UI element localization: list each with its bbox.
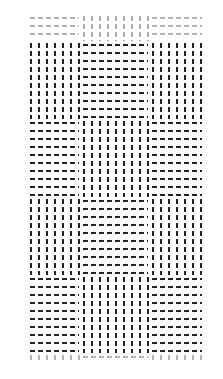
dash-column [83, 16, 85, 41]
dash-row [152, 310, 202, 312]
dash-column [139, 16, 141, 41]
dash-row [152, 25, 202, 27]
dash-row [30, 318, 79, 320]
dash-column [160, 43, 162, 119]
dash-column [160, 199, 162, 275]
dash-row [30, 294, 79, 296]
texture-stimulus [0, 0, 223, 379]
dash-column [99, 121, 101, 197]
dash-row [83, 84, 148, 86]
dash-row [30, 146, 79, 148]
dash-column [54, 199, 56, 275]
dash-column [83, 121, 85, 197]
dash-row [83, 68, 148, 70]
dash-row [152, 302, 202, 304]
dash-row [30, 154, 79, 156]
dash-row [83, 60, 148, 62]
dash-column [30, 43, 32, 119]
dash-row [152, 294, 202, 296]
dash-row [83, 256, 148, 258]
dash-column [54, 43, 56, 119]
dash-row [152, 186, 202, 188]
dash-row [30, 162, 79, 164]
dash-column [99, 277, 101, 353]
dash-column [123, 121, 125, 197]
dash-row [83, 200, 148, 202]
dash-row [152, 162, 202, 164]
dash-row [152, 154, 202, 156]
dash-row [30, 326, 79, 328]
dash-column [54, 355, 56, 362]
dash-column [200, 199, 202, 275]
dash-row [30, 194, 79, 196]
horizontal-texture-block [80, 197, 149, 275]
dash-column [115, 121, 117, 197]
dash-column [91, 16, 93, 41]
dash-column [184, 199, 186, 275]
dash-column [131, 277, 133, 353]
dash-row [152, 178, 202, 180]
dash-row [152, 318, 202, 320]
dash-column [70, 43, 72, 119]
dash-row [83, 272, 148, 274]
dash-row [152, 138, 202, 140]
dash-row [83, 108, 148, 110]
vertical-texture-block [27, 353, 80, 362]
dash-row [30, 302, 79, 304]
dash-row [83, 232, 148, 234]
dash-column [38, 43, 40, 119]
dash-column [83, 277, 85, 353]
dash-column [91, 277, 93, 353]
dash-row [83, 44, 148, 46]
dash-row [83, 76, 148, 78]
dash-column [38, 355, 40, 362]
horizontal-texture-block [149, 14, 203, 41]
dash-column [200, 43, 202, 119]
horizontal-texture-block [80, 41, 149, 119]
dash-column [46, 43, 48, 119]
dash-row [152, 122, 202, 124]
dash-row [83, 216, 148, 218]
dash-row [30, 342, 79, 344]
dash-row [83, 240, 148, 242]
dash-row [83, 224, 148, 226]
dash-column [184, 43, 186, 119]
dash-column [176, 199, 178, 275]
dash-column [176, 355, 178, 362]
dash-row [152, 326, 202, 328]
horizontal-texture-block [27, 14, 80, 41]
dash-column [139, 277, 141, 353]
dash-column [30, 199, 32, 275]
vertical-texture-block [80, 275, 149, 353]
dash-row [30, 286, 79, 288]
dash-column [152, 355, 154, 362]
dash-column [192, 43, 194, 119]
dash-column [168, 355, 170, 362]
dash-column [62, 355, 64, 362]
dash-row [152, 350, 202, 352]
dash-row [30, 130, 79, 132]
dash-column [184, 355, 186, 362]
dash-row [30, 170, 79, 172]
dash-row [152, 342, 202, 344]
dash-row [83, 356, 148, 358]
dash-column [107, 277, 109, 353]
dash-row [152, 286, 202, 288]
dash-column [131, 16, 133, 41]
dash-column [123, 277, 125, 353]
dash-row [30, 334, 79, 336]
dash-column [192, 355, 194, 362]
horizontal-texture-block [149, 275, 203, 353]
dash-column [46, 199, 48, 275]
dash-row [30, 310, 79, 312]
dash-column [160, 355, 162, 362]
vertical-texture-block [27, 41, 80, 119]
dash-row [30, 178, 79, 180]
horizontal-texture-block [27, 275, 80, 353]
dash-row [30, 25, 79, 27]
dash-column [168, 43, 170, 119]
dash-column [139, 121, 141, 197]
dash-row [30, 138, 79, 140]
dash-row [152, 194, 202, 196]
dash-column [62, 199, 64, 275]
